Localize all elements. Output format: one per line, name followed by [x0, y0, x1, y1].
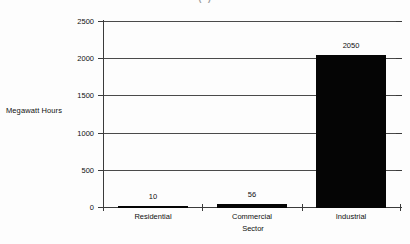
x-axis-category-label: Industrial [336, 212, 366, 221]
x-axis-title: Sector [242, 224, 264, 233]
bar-value-label: 56 [248, 190, 256, 199]
bar-value-label: 10 [149, 192, 157, 201]
bar-series [0, 0, 410, 208]
x-axis-category-label: Residential [134, 212, 171, 221]
chart-figure: ( ) Megawatt Hours 05001000150020002500 … [0, 0, 410, 244]
bar-value-label: 2050 [343, 41, 360, 50]
x-axis-category-label: Commercial [232, 212, 272, 221]
bar [316, 55, 386, 208]
bar [217, 204, 287, 208]
bar [118, 206, 188, 208]
